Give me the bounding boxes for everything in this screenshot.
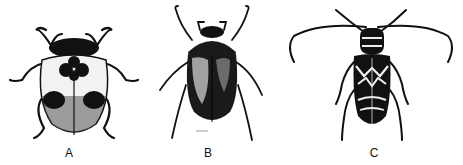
beetle-c-illustration: C xyxy=(280,0,463,165)
figure-label-c: C xyxy=(364,146,384,160)
beetle-a-illustration: A xyxy=(0,0,160,165)
figure-label-b: B xyxy=(198,146,218,160)
scarab-beetle-icon xyxy=(150,0,280,165)
beetle-figure-panel: A B xyxy=(0,0,463,165)
longhorn-beetle-icon xyxy=(280,0,463,165)
ladybird-beetle-icon xyxy=(0,0,160,165)
figure-label-a: A xyxy=(59,146,79,160)
beetle-b-illustration: B xyxy=(150,0,280,165)
